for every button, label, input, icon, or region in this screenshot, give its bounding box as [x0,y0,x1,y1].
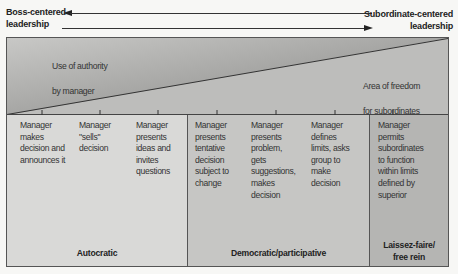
section-autocratic: Manager makes decision and announces it … [7,115,187,266]
authority-label-line1: Use of authority [52,60,107,73]
section-title-democratic: Democratic/participative [188,247,369,259]
boss-centered-line1: Boss-centered [6,6,66,18]
subordinate-centered-label: Subordinate-centered leadership [364,8,453,32]
boss-centered-line2: leadership [6,18,66,30]
behavior-2: Manager "sells" decision [79,120,111,155]
section-laissez-faire: Manager permits subordinates to function… [369,115,448,266]
arrow-left-line [70,13,372,14]
section-democratic: Manager presents tentative decision subj… [187,115,369,266]
boss-centered-label: Boss-centered leadership [6,6,66,30]
freedom-label-line1: Area of freedom [363,80,420,93]
section-title-laissez-faire: Laissez-faire/ free rein [370,239,448,263]
arrow-right-line [62,28,364,29]
section-title-autocratic: Autocratic [7,247,187,259]
behavior-6: Manager defines limits, asks group to ma… [311,120,349,190]
behavior-1: Manager makes decision and announces it [20,120,65,166]
subordinate-centered-line1: Subordinate-centered [364,8,453,20]
authority-freedom-area: Use of authority by manager Area of free… [7,38,448,115]
behavior-4: Manager presents tentative decision subj… [195,120,229,190]
authority-label-line2: by manager [52,85,107,98]
behavior-5: Manager presents problem, gets suggestio… [251,120,296,201]
behavior-7: Manager permits subordinates to function… [378,120,424,201]
subordinate-centered-line2: leadership [364,20,453,32]
behavior-3: Manager presents ideas and invites quest… [136,120,171,178]
leadership-continuum-diagram: Use of authority by manager Area of free… [6,37,449,267]
authority-label: Use of authority by manager [52,47,107,110]
